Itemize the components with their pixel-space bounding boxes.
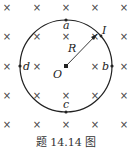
label-c: c <box>63 98 69 111</box>
field-cross-icon: × <box>62 31 70 42</box>
field-cross-icon: × <box>33 119 41 130</box>
field-cross-icon: × <box>33 61 41 72</box>
label-b: b <box>102 60 109 73</box>
figure-caption: 题 14.14 图 <box>0 133 132 149</box>
field-cross-icon: × <box>3 2 11 13</box>
point-d <box>18 64 21 67</box>
field-cross-icon: × <box>120 119 128 130</box>
field-cross-icon: × <box>120 2 128 13</box>
label-d: d <box>23 60 30 73</box>
field-cross-icon: × <box>3 61 11 72</box>
field-cross-icon: × <box>3 90 11 101</box>
label-a: a <box>63 19 70 32</box>
field-cross-icon: × <box>91 2 99 13</box>
field-cross-icon: × <box>3 119 11 130</box>
field-cross-icon: × <box>120 90 128 101</box>
center-point <box>64 64 68 68</box>
field-cross-icon: × <box>3 31 11 42</box>
field-cross-icon: × <box>62 2 70 13</box>
field-cross-icon: × <box>120 61 128 72</box>
field-cross-icon: × <box>91 119 99 130</box>
field-cross-icon: × <box>62 119 70 130</box>
field-cross-icon: × <box>33 2 41 13</box>
label-center-o: O <box>53 68 62 81</box>
label-radius-r: R <box>67 42 76 55</box>
field-cross-icon: × <box>91 61 99 72</box>
magnetic-field-diagram: ×××××××××××××××××××××××× a b c d O R I <box>0 0 132 151</box>
point-b <box>110 64 113 67</box>
label-current-i: I <box>101 24 107 37</box>
field-cross-icon: × <box>120 31 128 42</box>
